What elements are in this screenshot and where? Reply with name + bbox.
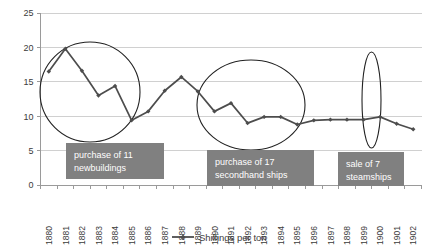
annotation-sale-steamships-line2: steamships <box>346 172 392 182</box>
x-axis-label-1884: 1884 <box>110 226 120 245</box>
y-axis-label: 25 <box>23 8 33 18</box>
annotation-secondhand-ships: purchase of 17secondhand ships <box>207 150 314 186</box>
x-axis-label-1900: 1900 <box>375 226 385 245</box>
legend-label: Shillings per ton <box>199 232 267 243</box>
y-axis-label: 5 <box>28 146 33 156</box>
x-axis-label-1880: 1880 <box>44 226 54 245</box>
x-axis-label-1897: 1897 <box>326 226 336 245</box>
annotation-sale-steamships: sale of 7steamships <box>338 152 404 186</box>
x-axis-label-1898: 1898 <box>342 226 352 245</box>
line-chart: 0510152025 18801881188218831884188518861… <box>0 0 434 249</box>
annotation-newbuildings-line1: purchase of 11 <box>74 150 133 160</box>
x-axis-label-1896: 1896 <box>309 226 319 245</box>
x-axis-label-1881: 1881 <box>61 226 71 245</box>
annotation-sale-steamships-line1: sale of 7 <box>346 159 380 169</box>
annotation-secondhand-ships-line2: secondhand ships <box>215 170 288 180</box>
x-axis-label-1883: 1883 <box>94 226 104 245</box>
annotation-newbuildings-line2: newbuildings <box>74 163 127 173</box>
annotation-secondhand-ships-box <box>207 150 314 186</box>
x-axis-label-1882: 1882 <box>77 226 87 245</box>
y-axis-label: 15 <box>23 77 33 87</box>
chart-container: 0510152025 18801881188218831884188518861… <box>0 0 434 249</box>
x-axis-label-1888: 1888 <box>177 226 187 245</box>
x-axis-label-1895: 1895 <box>292 226 302 245</box>
y-axis-label: 10 <box>23 112 33 122</box>
annotation-secondhand-ships-line1: purchase of 17 <box>215 157 275 167</box>
x-axis-label-1885: 1885 <box>127 226 137 245</box>
annotation-newbuildings: purchase of 11newbuildings <box>66 143 164 179</box>
x-axis-label-1901: 1901 <box>392 226 402 245</box>
x-axis-label-1894: 1894 <box>276 226 286 245</box>
x-axis-label-1902: 1902 <box>408 226 418 245</box>
y-axis-label: 20 <box>23 43 33 53</box>
plot-background <box>0 0 434 249</box>
annotation-newbuildings-box <box>66 143 164 179</box>
x-axis-label-1887: 1887 <box>160 226 170 245</box>
x-axis-label-1886: 1886 <box>143 226 153 245</box>
y-axis-label: 0 <box>28 180 33 190</box>
x-axis-label-1899: 1899 <box>359 226 369 245</box>
